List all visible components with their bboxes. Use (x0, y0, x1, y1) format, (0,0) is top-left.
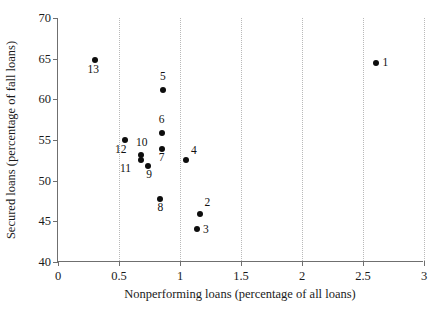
x-axis-title: Nonperforming loans (percentage of all l… (57, 288, 423, 301)
gridline-vertical (119, 18, 120, 261)
y-tick-mark (53, 181, 58, 182)
data-point (197, 211, 203, 217)
data-point-label: 1 (382, 57, 388, 69)
data-point (183, 157, 189, 163)
x-tick-label: 2.5 (355, 270, 371, 283)
x-tick-label: 1.5 (233, 270, 249, 283)
data-point-label: 7 (159, 152, 165, 164)
plot-area: 40455055606570 00.511.522.53 12345678910… (57, 18, 423, 262)
y-axis-title: Secured loans (percentage of fall loans) (5, 41, 18, 239)
x-tick-mark (424, 261, 425, 266)
data-point-label: 2 (205, 197, 211, 209)
y-tick-label: 50 (39, 174, 52, 187)
data-point-label: 3 (203, 224, 209, 236)
y-tick-label: 60 (39, 93, 52, 106)
y-tick-mark (53, 99, 58, 100)
x-tick-mark (302, 261, 303, 266)
x-tick-label: 2 (299, 270, 305, 283)
y-tick-mark (53, 140, 58, 141)
y-tick-mark (53, 59, 58, 60)
gridline-vertical (424, 18, 425, 261)
scatter-chart-figure: 40455055606570 00.511.522.53 12345678910… (0, 0, 435, 312)
x-tick-mark (58, 261, 59, 266)
data-point-label: 12 (115, 144, 127, 156)
x-tick-label: 0 (55, 270, 61, 283)
x-tick-label: 3 (421, 270, 427, 283)
data-point (373, 60, 379, 66)
data-point-label: 4 (191, 145, 197, 157)
y-tick-mark (53, 18, 58, 19)
data-point-label: 11 (120, 163, 131, 175)
data-point-label: 8 (157, 202, 163, 214)
data-point-label: 5 (160, 71, 166, 83)
data-point (194, 226, 200, 232)
data-point-label: 10 (136, 137, 148, 149)
y-tick-label: 65 (39, 52, 52, 65)
x-tick-mark (180, 261, 181, 266)
data-point-label: 6 (159, 114, 165, 126)
gridline-vertical (241, 18, 242, 261)
gridline-vertical (180, 18, 181, 261)
data-point (138, 157, 144, 163)
data-point-label: 13 (88, 64, 100, 76)
y-tick-mark (53, 221, 58, 222)
x-tick-mark (363, 261, 364, 266)
data-point (159, 130, 165, 136)
data-point-label: 9 (146, 169, 152, 181)
gridline-vertical (302, 18, 303, 261)
y-tick-label: 55 (39, 134, 52, 147)
y-tick-label: 45 (39, 215, 52, 228)
x-tick-label: 0.5 (111, 270, 127, 283)
data-point (160, 87, 166, 93)
gridline-vertical (363, 18, 364, 261)
y-tick-label: 70 (39, 12, 52, 25)
y-tick-label: 40 (39, 256, 52, 269)
x-tick-mark (241, 261, 242, 266)
x-tick-mark (119, 261, 120, 266)
x-tick-label: 1 (177, 270, 183, 283)
